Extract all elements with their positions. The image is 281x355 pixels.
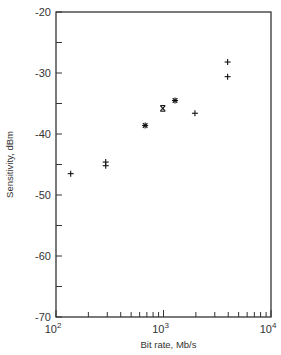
- x-tick-label: 102: [45, 321, 62, 335]
- y-tick-label: -70: [35, 311, 51, 323]
- y-tick-label: -20: [35, 6, 51, 18]
- data-point-plus: [225, 59, 231, 65]
- plot-frame: [56, 12, 271, 317]
- sensitivity-vs-bitrate-chart: -20-30-40-50-60-70 102103104 Bit rate, M…: [0, 0, 281, 355]
- x-axis-ticks: 102103104: [45, 310, 277, 335]
- data-point-plus: [192, 110, 198, 116]
- x-tick-label: 104: [260, 321, 277, 335]
- data-point-boxed-x: [160, 106, 165, 112]
- data-point-plus: [68, 171, 74, 177]
- y-axis-ticks: -20-30-40-50-60-70: [35, 6, 62, 323]
- x-axis-title: Bit rate, Mb/s: [141, 339, 197, 350]
- data-point-star: [142, 122, 148, 128]
- y-tick-label: -40: [35, 128, 51, 140]
- y-axis-title: Sensitivity, dBm: [4, 131, 15, 198]
- data-points: [68, 59, 231, 177]
- y-tick-label: -30: [35, 67, 51, 79]
- x-tick-label: 103: [152, 321, 169, 335]
- data-point-star: [172, 97, 178, 103]
- y-tick-label: -50: [35, 189, 51, 201]
- y-tick-label: -60: [35, 250, 51, 262]
- data-point-plus: [103, 163, 109, 169]
- data-point-plus: [225, 74, 231, 80]
